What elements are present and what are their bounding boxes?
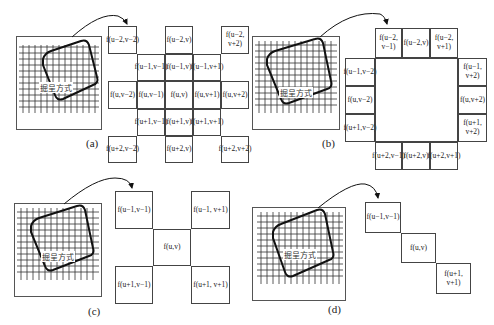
cell: f(u,v) — [401, 233, 436, 263]
cell: f(u−2,v) — [402, 28, 430, 58]
cell: f(u−2,v) — [165, 26, 193, 54]
cell: f(u+1, v+2) — [458, 114, 487, 142]
cell: f(u+1,v−1) — [115, 266, 153, 304]
pixel-grid-lines — [253, 37, 341, 131]
cell: f(u,v) — [165, 81, 193, 109]
pixel-grid-image: 掘呈方式 — [252, 36, 340, 130]
cell: f(u,v) — [153, 229, 191, 266]
rect-label: 掘呈方式 — [283, 249, 317, 260]
cell: f(u+2,v−2) — [108, 136, 137, 163]
cell: f(u,v+2) — [458, 86, 487, 114]
cell: f(u+2,v) — [402, 142, 430, 170]
pixel-grid-image: 掘呈方式 — [16, 36, 102, 130]
cell: f(u−1,v+1) — [193, 54, 221, 81]
pixel-grid-image: 掘呈方式 — [252, 207, 346, 301]
caption-d: (d) — [328, 303, 341, 315]
cell: f(u+1,v+1) — [193, 109, 221, 136]
cell: f(u+2,v) — [165, 136, 193, 163]
center-region — [375, 58, 458, 142]
cell: f(u+1,v−1) — [137, 109, 165, 136]
cell: f(u+2,v+1) — [430, 142, 458, 170]
rect-label: 掘呈方式 — [41, 251, 75, 262]
cell: f(u−1,v) — [165, 54, 193, 81]
caption-c: (c) — [88, 305, 100, 317]
cell: f(u−1,v−1) — [115, 191, 153, 229]
cell: f(u+1,v) — [165, 109, 193, 136]
cell: f(u−2,v−2) — [108, 26, 137, 54]
cell: f(u−1,v−1) — [137, 54, 165, 81]
cell: f(u+1, v+1) — [436, 263, 471, 294]
cell: f(u−2, v−1) — [375, 28, 402, 58]
cell: f(u−1,v−1) — [365, 202, 401, 233]
cell: f(u−2, v+2) — [221, 26, 249, 54]
rect-label: 掘呈方式 — [279, 87, 313, 98]
cell: f(u+2,v−1) — [375, 142, 402, 170]
cell: f(u,v−2) — [345, 86, 375, 114]
cell: f(u+1, v+1) — [191, 266, 230, 304]
cell: f(u,v+1) — [193, 81, 221, 109]
caption-a: (a) — [86, 137, 98, 149]
cell: f(u−2, v+1) — [430, 28, 458, 58]
cell: f(u,v−2) — [108, 81, 137, 109]
rect-label: 掘呈方式 — [39, 82, 73, 93]
pixel-grid-image: 掘呈方式 — [14, 203, 102, 297]
cell: f(u−1,v−2) — [345, 58, 375, 86]
cell: f(u+1,v−2) — [345, 114, 375, 142]
cell: f(u−1, v+2) — [458, 58, 487, 86]
caption-b: (b) — [322, 137, 335, 149]
cell: f(u+2,v+2) — [221, 136, 249, 163]
cell: f(u−1, v+1) — [191, 191, 230, 229]
cell: f(u,v−1) — [137, 81, 165, 109]
cell: f(u,v+2) — [221, 81, 249, 109]
